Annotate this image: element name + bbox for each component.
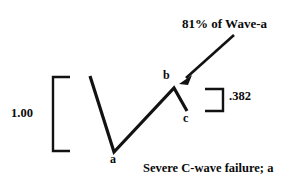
point-label-a: a: [110, 153, 116, 166]
caption-line-1: Severe C-wave failure; a: [143, 161, 285, 174]
point-label-b: b: [163, 69, 170, 82]
elliott-wave-figure: 81% of Wave-a 1.00 .382 a b c Severe C-w…: [0, 0, 306, 174]
title-label: 81% of Wave-a: [182, 17, 267, 32]
left-bracket-label: 1.00: [11, 106, 33, 120]
callout-arrow-shaft: [186, 35, 234, 78]
callout-arrow-head-icon: [179, 75, 192, 85]
right-bracket-label: .382: [229, 89, 251, 103]
point-label-c: c: [183, 112, 188, 125]
left-bracket-icon: [53, 77, 70, 151]
caption-block: Severe C-wave failure; a strong move sho…: [143, 133, 285, 174]
right-bracket-icon: [205, 89, 223, 111]
